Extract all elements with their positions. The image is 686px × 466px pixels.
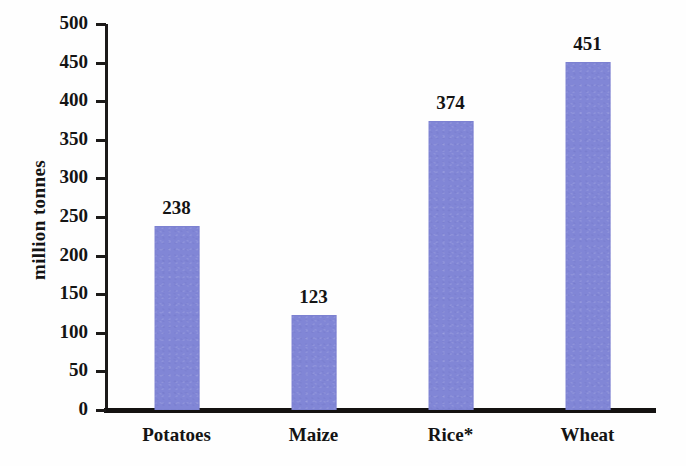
y-axis-tick-mark — [96, 62, 106, 65]
y-axis-tick-mark — [96, 23, 106, 26]
y-axis-tick-label: 400 — [22, 90, 88, 109]
y-axis-tick-label: 150 — [22, 283, 88, 302]
x-axis-category-label: Wheat — [508, 424, 668, 446]
y-axis-tick-label: 350 — [22, 129, 88, 148]
bar-chart: million tonnes 0501001502002503003504004… — [0, 0, 686, 466]
y-axis-tick-mark — [96, 409, 106, 412]
y-axis-tick-label: 0 — [22, 399, 88, 418]
y-axis-tick-mark — [96, 216, 106, 219]
y-axis-tick-mark — [96, 139, 106, 142]
bar-group: 123 — [245, 24, 382, 410]
bar-value-label: 374 — [436, 93, 465, 112]
x-axis-category-label: Rice* — [371, 424, 531, 446]
bar-group: 238 — [108, 24, 245, 410]
y-axis-tick-mark — [96, 100, 106, 103]
y-axis-tick-mark — [96, 332, 106, 335]
y-axis-tick-mark — [96, 177, 106, 180]
y-axis-tick-label: 50 — [22, 360, 88, 379]
y-axis-tick-mark — [96, 255, 106, 258]
y-axis-tick-label: 300 — [22, 167, 88, 186]
x-axis-category-label: Maize — [234, 424, 394, 446]
bar[interactable] — [154, 226, 199, 410]
bar[interactable] — [291, 315, 336, 410]
bar-value-label: 451 — [573, 34, 602, 53]
bar-group: 451 — [519, 24, 656, 410]
plot-area: 238123374451 — [108, 24, 656, 410]
y-axis-tick-label: 250 — [22, 206, 88, 225]
y-axis-tick-label: 500 — [22, 13, 88, 32]
y-axis-tick-mark — [96, 370, 106, 373]
bar[interactable] — [565, 62, 610, 410]
y-axis-tick-label: 450 — [22, 52, 88, 71]
bar[interactable] — [428, 121, 473, 410]
y-axis-tick-label: 200 — [22, 245, 88, 264]
y-axis-tick-mark — [96, 293, 106, 296]
bar-group: 374 — [382, 24, 519, 410]
y-axis-tick-label: 100 — [22, 322, 88, 341]
x-axis-category-label: Potatoes — [97, 424, 257, 446]
bar-value-label: 123 — [299, 287, 328, 306]
bar-value-label: 238 — [162, 198, 191, 217]
